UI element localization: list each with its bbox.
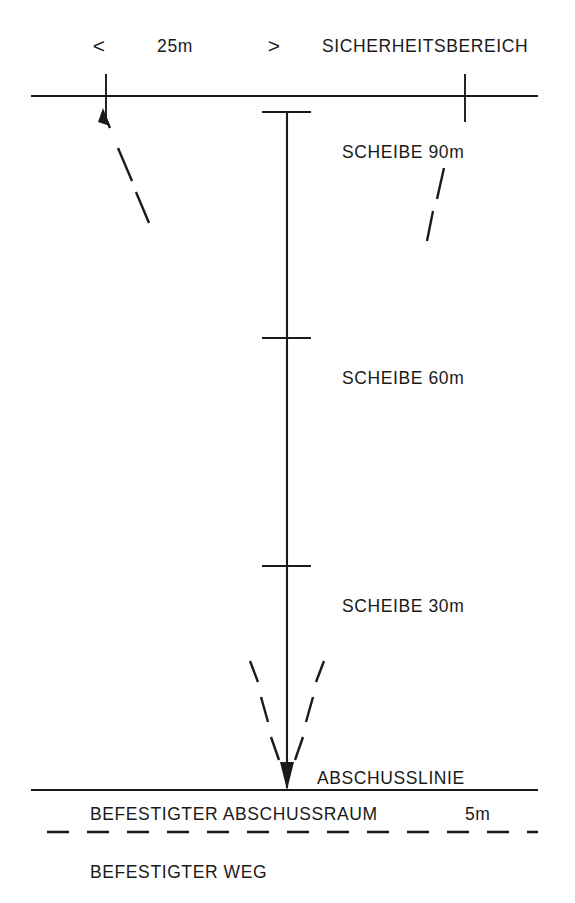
shooting-range-diagram: < 25m > SICHERHEITSBEREICH SCHEIBE 90m S… — [0, 0, 575, 903]
firing-line-label: ABSCHUSSLINIE — [317, 768, 465, 788]
fan-left-arrowhead-icon — [98, 108, 110, 126]
diagram-canvas: < 25m > SICHERHEITSBEREICH SCHEIBE 90m S… — [0, 0, 575, 903]
dimension-right-arrow-icon: > — [268, 34, 280, 57]
safety-zone-label: SICHERHEITSBEREICH — [322, 36, 528, 56]
safety-fan-lower-left-dashed — [250, 661, 279, 760]
safety-fan-right-dashed — [427, 168, 444, 241]
firing-area-label: BEFESTIGTER ABSCHUSSRAUM — [90, 804, 378, 824]
target-label-60m: SCHEIBE 60m — [342, 368, 464, 388]
firing-point-arrowhead-icon — [280, 762, 294, 790]
width-dimension-label: 25m — [157, 36, 193, 56]
safety-fan-left-dashed — [98, 108, 149, 223]
target-label-90m: SCHEIBE 90m — [342, 142, 464, 162]
path-label: BEFESTIGTER WEG — [90, 862, 267, 882]
target-label-30m: SCHEIBE 30m — [342, 596, 464, 616]
dimension-left-arrow-icon: < — [93, 34, 105, 57]
firing-area-depth-label: 5m — [465, 804, 491, 824]
safety-fan-lower-right-dashed — [295, 661, 324, 760]
